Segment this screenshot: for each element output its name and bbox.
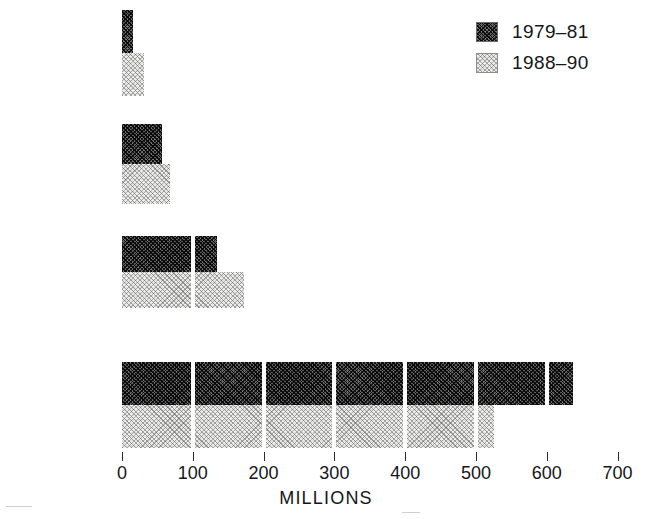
bar-asia-1988-90 — [122, 405, 494, 448]
x-tick-label-600: 600 — [517, 463, 577, 483]
bar-near-east-1979-81 — [122, 10, 133, 53]
bar-fill-dark — [122, 362, 573, 405]
x-tick-0 — [122, 452, 123, 461]
x-axis-title: MILLIONS — [226, 488, 426, 509]
legend-swatch-light-icon — [476, 53, 498, 73]
x-tick-label-0: 0 — [92, 463, 152, 483]
bar-fill-dark — [122, 236, 217, 272]
bar-segment-gap — [332, 362, 336, 405]
x-tick-label-100: 100 — [163, 463, 223, 483]
bar-segment-gap — [474, 405, 478, 448]
bar-latin-america-1979-81 — [122, 124, 162, 164]
x-tick-label-700: 700 — [588, 463, 648, 483]
bar-latin-america-1988-90 — [122, 164, 170, 204]
bar-asia-1979-81 — [122, 362, 573, 405]
bar-fill-light — [122, 272, 244, 308]
x-tick-300 — [334, 452, 335, 461]
bar-segment-gap — [332, 405, 336, 448]
bar-group-asia — [122, 362, 642, 448]
x-tick-label-500: 500 — [446, 463, 506, 483]
bar-fill-light — [122, 405, 494, 448]
bar-segment-gap — [474, 362, 478, 405]
bar-segment-gap — [191, 236, 195, 272]
x-tick-label-300: 300 — [304, 463, 364, 483]
bar-segment-gap — [191, 362, 195, 405]
x-tick-700 — [618, 452, 619, 461]
x-tick-600 — [547, 452, 548, 461]
bar-near-east-1988-90 — [122, 53, 144, 96]
bar-segment-gap — [191, 272, 195, 308]
scan-artifact — [6, 506, 32, 507]
bar-fill-dark — [122, 10, 133, 53]
legend-swatch-dark-fill — [477, 23, 497, 41]
bar-group-africa — [122, 236, 642, 308]
legend-item-1988-90: 1988–90 — [476, 49, 589, 76]
x-tick-400 — [405, 452, 406, 461]
scan-artifact — [402, 512, 420, 513]
x-tick-200 — [264, 452, 265, 461]
bar-africa-1988-90 — [122, 272, 244, 308]
bar-segment-gap — [403, 362, 407, 405]
bar-fill-light — [122, 53, 144, 96]
x-tick-label-400: 400 — [375, 463, 435, 483]
bar-segment-gap — [262, 405, 266, 448]
legend-label-1979-81: 1979–81 — [512, 21, 589, 43]
bar-fill-dark — [122, 124, 162, 164]
x-tick-500 — [476, 452, 477, 461]
legend-swatch-dark-icon — [476, 22, 498, 42]
x-tick-100 — [193, 452, 194, 461]
bar-segment-gap — [191, 405, 195, 448]
horizontal-bar-chart: NEAR EAST LATIN AMERICA AFRICA ASIA 0100… — [0, 0, 651, 519]
bar-segment-gap — [545, 362, 549, 405]
legend-swatch-light-fill — [477, 54, 497, 72]
bar-africa-1979-81 — [122, 236, 217, 272]
legend-label-1988-90: 1988–90 — [512, 52, 589, 74]
legend-item-1979-81: 1979–81 — [476, 18, 589, 45]
bar-segment-gap — [262, 362, 266, 405]
bar-fill-light — [122, 164, 170, 204]
x-tick-label-200: 200 — [234, 463, 294, 483]
bar-group-latin-america — [122, 124, 642, 204]
bar-segment-gap — [403, 405, 407, 448]
legend: 1979–81 1988–90 — [476, 18, 589, 80]
